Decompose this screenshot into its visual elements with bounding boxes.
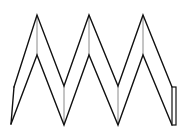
folded-strip-diagram: [0, 0, 192, 134]
glue-tab: [172, 87, 176, 125]
fold-lines: [37, 15, 143, 125]
outer-zigzag-edge: [14, 15, 172, 87]
inner-zigzag-edge: [11, 55, 172, 125]
